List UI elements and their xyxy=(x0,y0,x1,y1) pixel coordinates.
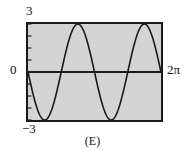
plot-frame xyxy=(26,22,163,122)
figure-root: 3 0 −3 2π (E) xyxy=(0,0,185,155)
plot-area xyxy=(28,24,161,120)
y-max-label: 3 xyxy=(26,4,33,17)
figure-caption: (E) xyxy=(0,134,185,148)
x-max-label: 2π xyxy=(167,63,180,76)
y-zero-label: 0 xyxy=(10,63,17,76)
